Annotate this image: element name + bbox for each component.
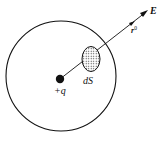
- unit-vector-label: r0: [131, 25, 137, 35]
- point-charge: [56, 75, 64, 83]
- surface-element-ds: [82, 47, 100, 72]
- surface-element-label: dS: [83, 75, 93, 86]
- charge-label: +q: [54, 85, 66, 96]
- gauss-law-diagram: +q dS r0 E: [0, 0, 161, 144]
- field-label: E: [149, 5, 157, 16]
